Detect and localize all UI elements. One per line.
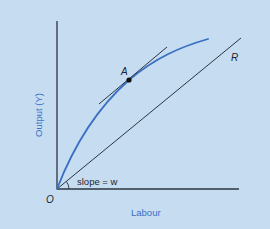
x-axis-label: Labour [131, 207, 161, 218]
ray-r-label: R [231, 52, 238, 63]
slope-label: slope = w [77, 176, 118, 187]
point-a-label: A [120, 66, 128, 77]
y-axis-label: Output (Y) [33, 93, 44, 137]
production-diagram: A R slope = w O Labour Output (Y) [0, 0, 270, 229]
point-a-marker [126, 77, 131, 82]
diagram-panel: A R slope = w O Labour Output (Y) [0, 0, 270, 229]
origin-label: O [46, 194, 54, 205]
ray-r [57, 38, 241, 189]
slope-angle-arc [66, 181, 69, 189]
production-curve [57, 39, 208, 189]
tangent-at-a [99, 47, 167, 104]
